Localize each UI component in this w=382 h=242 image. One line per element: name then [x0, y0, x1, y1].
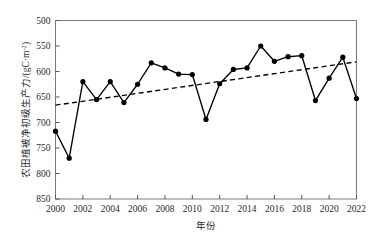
- x-tick-label-2006: 2006: [128, 204, 147, 214]
- data-point-2015: [258, 43, 263, 48]
- x-tick-label-2010: 2010: [183, 204, 202, 214]
- data-point-2007: [149, 60, 154, 65]
- data-point-2013: [231, 67, 236, 72]
- x-tick-label-2000: 2000: [46, 204, 65, 214]
- x-tick-label-2002: 2002: [73, 204, 92, 214]
- y-tick-label-700: 650: [36, 92, 51, 102]
- data-point-2016: [272, 59, 277, 64]
- y-tick-label-500: 850: [36, 194, 51, 204]
- data-point-2009: [176, 71, 181, 76]
- data-point-2003: [94, 97, 99, 102]
- data-point-2011: [203, 117, 208, 122]
- y-axis-ticks: [56, 21, 60, 200]
- x-tick-label-2022: 2022: [347, 204, 366, 214]
- x-tick-label-2004: 2004: [101, 204, 120, 214]
- y-axis-title: 农田植被净初级生产力/(gC·m-2): [20, 42, 32, 178]
- x-tick-label-2020: 2020: [320, 204, 339, 214]
- data-point-2017: [285, 54, 290, 59]
- data-point-2020: [327, 76, 332, 81]
- y-tick-label-550: 800: [36, 169, 51, 179]
- x-tick-label-2012: 2012: [210, 204, 229, 214]
- data-point-markers: [53, 43, 359, 160]
- y-tick-label-750: 600: [36, 67, 51, 77]
- x-tick-label-2014: 2014: [238, 204, 257, 214]
- x-axis-title: 年份: [196, 220, 216, 231]
- x-axis-ticks: [56, 195, 357, 199]
- data-point-2005: [121, 100, 126, 105]
- data-point-2012: [217, 81, 222, 86]
- y-tick-label-800: 550: [36, 41, 51, 51]
- data-point-2021: [340, 55, 345, 60]
- data-point-2022: [354, 96, 359, 101]
- trend-line: [56, 62, 357, 105]
- data-point-2002: [80, 79, 85, 84]
- data-point-2006: [135, 82, 140, 87]
- x-tick-label-2008: 2008: [155, 204, 174, 214]
- data-point-2019: [313, 98, 318, 103]
- y-axis-tick-labels: 850800750700650600550500: [36, 16, 51, 205]
- npp-line-chart: 850800750700650600550500 200020022004200…: [0, 0, 382, 242]
- data-point-2001: [67, 156, 72, 161]
- x-tick-label-2016: 2016: [265, 204, 284, 214]
- data-point-2018: [299, 53, 304, 58]
- x-axis-tick-labels: 2000200220042006200820102012201420162018…: [46, 204, 366, 214]
- data-series-line: [56, 46, 357, 158]
- chart-figure: 850800750700650600550500 200020022004200…: [0, 0, 382, 242]
- data-point-2004: [108, 79, 113, 84]
- y-tick-label-850: 500: [36, 16, 51, 26]
- plot-area-frame: [56, 21, 357, 200]
- y-tick-label-650: 700: [36, 118, 51, 128]
- data-point-2008: [162, 65, 167, 70]
- data-point-2014: [244, 65, 249, 70]
- x-tick-label-2018: 2018: [292, 204, 311, 214]
- data-point-2000: [53, 129, 58, 134]
- data-point-2010: [190, 72, 195, 77]
- y-tick-label-600: 750: [36, 143, 51, 153]
